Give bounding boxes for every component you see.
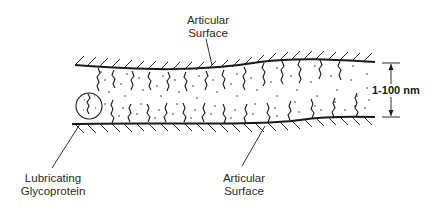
top-surface-leader: [206, 39, 212, 65]
bottom-surface-hatching: [76, 117, 372, 133]
fluid-molecules: [100, 66, 370, 118]
glycoprotein-leader: [52, 124, 80, 168]
top-surface-label: Articular Surface: [178, 14, 238, 40]
top-articular-surface: [75, 59, 375, 69]
bottom-articular-surface: [72, 117, 375, 124]
bottom-surface-label: Articular Surface: [214, 172, 274, 198]
glycoprotein-highlight-circle: [76, 93, 102, 119]
bottom-surface-leader: [242, 126, 265, 166]
gap-dimension-label: 1-100 nm: [372, 84, 420, 96]
glycoprotein-label: Lubricating Glycoprotein: [14, 172, 92, 198]
